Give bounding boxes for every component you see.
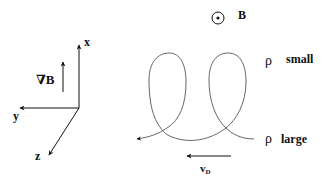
rho-small-annotation: ρ small	[265, 52, 314, 68]
drift-velocity-indicator: vD	[187, 156, 231, 176]
z-axis-label: z	[35, 149, 41, 163]
rho-large-text: large	[281, 132, 308, 146]
magnetic-field-indicator: B	[212, 8, 246, 24]
z-axis-arrow	[49, 108, 79, 155]
rho-large-annotation: ρ large	[265, 131, 308, 146]
gradient-b-label: ∇B	[36, 72, 55, 87]
field-label: B	[238, 8, 246, 22]
rho-small-symbol: ρ	[265, 53, 272, 68]
coordinate-axes: x y z	[13, 35, 90, 163]
rho-small-text: small	[286, 52, 314, 66]
drift-velocity-label: vD	[200, 162, 211, 176]
y-axis-label: y	[13, 109, 19, 123]
x-axis-label: x	[84, 35, 90, 49]
gradient-b-indicator: ∇B	[36, 62, 63, 92]
particle-trajectory	[137, 53, 254, 140]
rho-large-symbol: ρ	[265, 131, 272, 146]
grad-b-drift-diagram: x y z ∇B B ρ small ρ large vD	[0, 0, 329, 183]
